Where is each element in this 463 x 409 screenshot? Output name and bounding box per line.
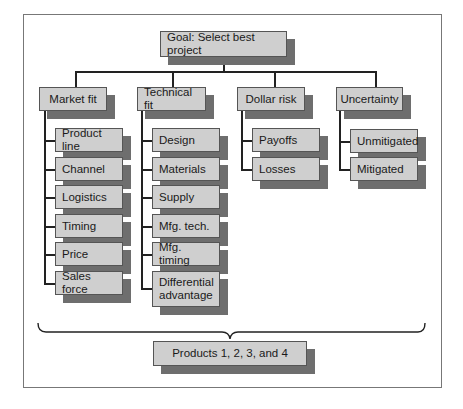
alternatives-label: Products 1, 2, 3, and 4 (153, 341, 307, 366)
alternatives-node: Products 1, 2, 3, and 4 (153, 341, 307, 366)
